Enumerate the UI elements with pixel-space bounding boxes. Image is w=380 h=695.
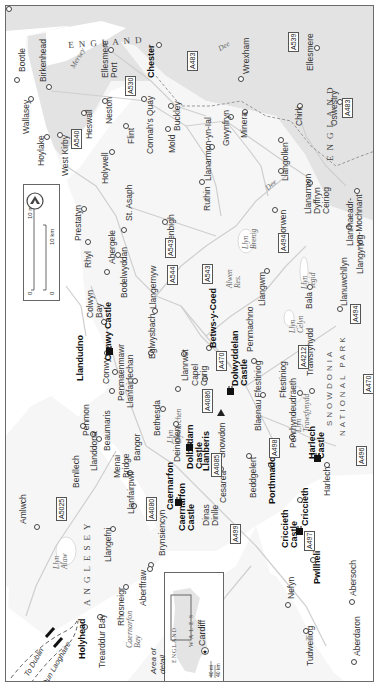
town-dot[interactable] xyxy=(6,6,12,12)
town-llangwm[interactable]: Llangwm xyxy=(258,272,267,306)
castle-label-dolbadarn[interactable]: Dolbadarn Castle xyxy=(186,445,204,469)
town-holyhead[interactable]: Holyhead xyxy=(78,618,87,659)
road-a498[interactable]: A498 xyxy=(269,438,280,458)
town-heswall[interactable]: Heswall xyxy=(85,109,94,139)
town-dot[interactable] xyxy=(156,42,162,48)
town-dot[interactable] xyxy=(285,602,291,608)
town-rhosneigr[interactable]: Rhosneigr xyxy=(117,587,126,626)
town-brynsiencyn[interactable]: Brynsiencyn xyxy=(158,510,167,556)
road-a4212[interactable]: A4212 xyxy=(298,345,309,369)
town-dot[interactable] xyxy=(238,76,244,82)
road-a483-north[interactable]: A483 xyxy=(187,51,198,71)
town-rhyl[interactable]: Rhyl xyxy=(84,251,93,268)
town-llangollen[interactable]: Llangollen xyxy=(281,142,290,181)
town-llangynog[interactable]: Llangynog xyxy=(356,235,365,274)
town-dot[interactable] xyxy=(46,84,52,90)
town-amlwch[interactable]: Amlwch xyxy=(19,494,28,524)
town-colwyn-bay[interactable]: Colwyn Bay xyxy=(86,294,104,318)
town-llanrwst[interactable]: Llanrwst xyxy=(181,349,190,381)
road-a470-south[interactable]: A470 xyxy=(363,374,374,394)
town-aberffraw[interactable]: Aberffraw xyxy=(139,570,148,606)
town-st-asaph[interactable]: St. Asaph xyxy=(125,185,134,221)
town-dot[interactable] xyxy=(14,77,20,83)
town-aberdaron[interactable]: Aberdaron xyxy=(353,616,362,656)
town-caernarfon[interactable]: Caernarfon xyxy=(166,462,175,510)
town-oswestry[interactable]: Oswestry xyxy=(330,91,339,126)
town-deiniolen[interactable]: Deiniolen xyxy=(173,427,182,462)
town-flint[interactable]: Flint xyxy=(127,128,136,144)
road-a494-south[interactable]: A494 xyxy=(350,304,361,324)
road-a539[interactable]: A539 xyxy=(288,32,299,52)
castle-icon-dolwyddelan[interactable] xyxy=(227,386,234,395)
road-a470-north[interactable]: A470 xyxy=(216,351,227,371)
town-penmachno[interactable]: Penmachno xyxy=(246,307,255,352)
town-llanfairfechan[interactable]: Llanfairfechan xyxy=(126,355,135,408)
town-dot[interactable] xyxy=(307,284,313,290)
town-dot[interactable] xyxy=(109,388,115,394)
town-llangefni[interactable]: Llangefni xyxy=(104,527,113,562)
road-a494-north[interactable]: A494 xyxy=(278,233,289,253)
town-harlech[interactable]: Harlech xyxy=(323,467,332,496)
town-connahs-quay[interactable]: Connah's Quay xyxy=(146,96,155,154)
town-dot[interactable] xyxy=(337,306,343,312)
road-a496[interactable]: A496 xyxy=(356,446,367,466)
road-a483-south[interactable]: A483 xyxy=(342,98,353,118)
town-blaenau-ffestiniog[interactable]: Blaenau Ffestiniog xyxy=(254,361,263,431)
town-dot[interactable] xyxy=(121,227,127,233)
town-dot[interactable] xyxy=(309,388,315,394)
road-a530[interactable]: A530 xyxy=(125,76,136,96)
castle-label-harlech[interactable]: Harlech Castle xyxy=(308,435,326,459)
town-mold[interactable]: Mold xyxy=(168,135,177,153)
town-llangernyw[interactable]: Llangernyw xyxy=(149,266,158,309)
town-eglwysbach[interactable]: Eglwysbach xyxy=(148,314,157,359)
road-a543-south[interactable]: A543 xyxy=(202,264,213,284)
town-neston[interactable]: Neston xyxy=(105,97,114,124)
town-pwllheli[interactable]: Pwllheli xyxy=(313,550,322,584)
town-llanarmon-yn-ial[interactable]: Llanarmon-yn-Ial xyxy=(204,117,213,181)
town-llanuwchllyn[interactable]: Llanuwchllyn xyxy=(340,257,349,306)
town-west-kirby[interactable]: West Kirby xyxy=(61,135,70,176)
town-chester[interactable]: Chester xyxy=(147,44,156,78)
town-llanarmon-dyffryn-ceiriog[interactable]: Llanarmon Dyffryn Ceiriog xyxy=(304,174,331,214)
town-porthmadog[interactable]: Porthmadog xyxy=(268,451,277,504)
town-benllech[interactable]: Benllech xyxy=(72,455,81,488)
road-a499[interactable]: A499 xyxy=(230,524,241,544)
town-tudweiliog[interactable]: Tudweiliog xyxy=(306,626,315,666)
town-bodelwyddan[interactable]: Bodelwyddan xyxy=(120,247,129,298)
town-conwy[interactable]: Conwy xyxy=(102,358,111,384)
town-llanfairpwll[interactable]: Llanfairpwll xyxy=(127,471,136,514)
castle-label-criccieth[interactable]: Criccieth Castle xyxy=(281,522,299,548)
town-bootle[interactable]: Bootle xyxy=(18,48,27,72)
road-a540[interactable]: A540 xyxy=(71,129,82,149)
road-a544[interactable]: A544 xyxy=(167,265,178,285)
town-abersoch[interactable]: Abersoch xyxy=(349,560,358,596)
road-a543-north[interactable]: A543 xyxy=(165,238,176,258)
town-wrexham[interactable]: Wrexham xyxy=(242,38,251,74)
town-trearddur-bay[interactable]: Trearddur Bay xyxy=(98,614,107,668)
castle-label-caernarfon[interactable]: Caernarfon Castle xyxy=(178,503,196,531)
town-dot[interactable] xyxy=(351,659,357,665)
mountain-peak-icon[interactable] xyxy=(217,409,225,416)
town-minera[interactable]: Minera xyxy=(240,112,249,138)
road-a497[interactable]: A497 xyxy=(304,531,315,551)
road-a4080[interactable]: A4080 xyxy=(146,497,157,521)
town-ellesmere[interactable]: Ellesmere xyxy=(306,33,315,71)
town-dot[interactable] xyxy=(34,524,40,530)
town-beddgelert[interactable]: Beddgelert xyxy=(249,457,258,498)
town-bethesda[interactable]: Bethesda xyxy=(153,400,162,436)
town-llanddona[interactable]: Llanddona xyxy=(90,431,99,471)
town-abergele[interactable]: Abergele xyxy=(108,230,117,264)
castle-label-conwy[interactable]: Conwy Castle xyxy=(104,302,113,361)
town-bangor[interactable]: Bangor xyxy=(133,434,142,461)
town-dot[interactable] xyxy=(85,239,91,245)
town-criccieth[interactable]: Criccieth xyxy=(301,487,310,526)
town-penrhyndeudraeth[interactable]: Penrhyndeudraeth xyxy=(289,378,298,448)
town-dot[interactable] xyxy=(165,126,171,132)
town-llandudno[interactable]: Llandudno xyxy=(76,335,85,381)
town-birkenhead[interactable]: Birkenhead xyxy=(39,39,48,82)
town-nefyn[interactable]: Nefyn xyxy=(287,577,296,599)
castle-label-dolwyddelan[interactable]: Dolwyddelan Castle xyxy=(231,356,249,386)
town-dot[interactable] xyxy=(104,269,110,275)
town-capel-curig[interactable]: Capel Curig xyxy=(191,364,209,386)
town-ellesmere-port[interactable]: Ellesmere Port xyxy=(101,48,119,78)
